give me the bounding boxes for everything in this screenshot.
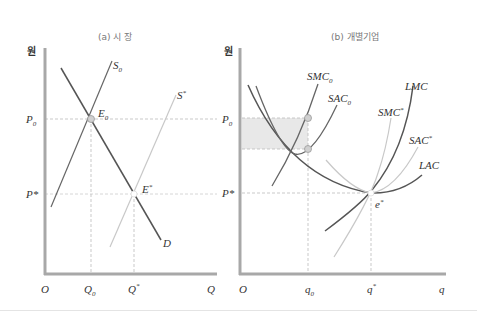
equilibrium-point-e0 <box>88 116 95 123</box>
sacstar-label: SAC* <box>409 134 433 146</box>
smcstar-curve <box>334 118 391 257</box>
estar-label: e* <box>375 198 384 210</box>
panel-title-market: (a) 시 장 <box>98 32 132 42</box>
equilibrium-point-estar <box>131 191 137 197</box>
y-unit-label: 원 <box>27 45 36 57</box>
supply-curve-sstar <box>110 95 176 247</box>
pstar-tick-label: P* <box>25 188 39 200</box>
e0-label: E0 <box>97 107 109 122</box>
smc0-price-point <box>305 115 312 122</box>
q-axis-label: Q <box>207 283 215 295</box>
q0-tick-label: Q0 <box>84 283 96 298</box>
estar-label: E* <box>141 183 153 195</box>
qstar-tick-label: Q* <box>128 282 140 295</box>
sstar-label: S* <box>177 89 187 101</box>
supply-curve-s0 <box>51 61 112 207</box>
pstar-tick-label: P* <box>221 187 235 199</box>
qstar-tick-label: q* <box>367 282 377 295</box>
panel-firm: (b) 개별기업 원 SMC0 SAC0 LMC SMC* SAC* <box>221 32 446 298</box>
y-unit-label: 원 <box>224 45 233 57</box>
panel-title-firm: (b) 개별기업 <box>331 32 379 42</box>
s0-label: S0 <box>113 59 123 74</box>
demand-curve <box>61 68 161 240</box>
q-axis-label: q <box>439 283 445 295</box>
smcstar-label: SMC* <box>378 106 404 118</box>
p0-tick-label: P0 <box>221 113 233 128</box>
long-run-equilibrium-point <box>368 190 374 196</box>
p0-tick-label: P0 <box>25 113 37 128</box>
d-label: D <box>162 237 171 249</box>
lac-label: LAC <box>418 159 440 171</box>
panel-market: (a) 시 장 원 S0 S* D E0 E* P0 P* O Q0 Q* Q <box>25 32 217 298</box>
diagram-canvas: (a) 시 장 원 S0 S* D E0 E* P0 P* O Q0 Q* Q … <box>0 0 477 318</box>
sac0-label: SAC0 <box>328 92 352 107</box>
origin-label: O <box>239 283 247 295</box>
origin-label: O <box>41 283 49 295</box>
sac0-point <box>305 146 312 153</box>
q0-tick-label: q0 <box>305 283 315 298</box>
smc0-label: SMC0 <box>307 70 333 85</box>
bottom-divider <box>0 310 477 311</box>
lmc-label: LMC <box>404 80 428 92</box>
